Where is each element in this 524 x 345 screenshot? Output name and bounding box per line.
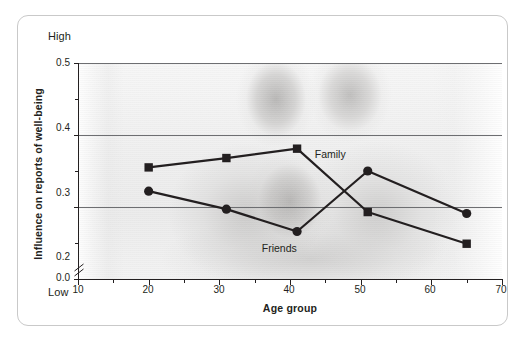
axis-high-label: High bbox=[48, 30, 71, 42]
data-point-family-1 bbox=[222, 154, 230, 162]
x-tick-label-4: 50 bbox=[340, 284, 380, 295]
chart-figure: High Low Influence on reports of well-be… bbox=[0, 0, 524, 345]
data-point-family-2 bbox=[293, 144, 301, 152]
x-axis-title: Age group bbox=[78, 302, 502, 314]
data-point-family-4 bbox=[462, 240, 470, 248]
y-tick-label-1: 0.4 bbox=[30, 122, 70, 133]
data-point-family-3 bbox=[364, 208, 372, 216]
y-tick-label-2: 0.3 bbox=[30, 187, 70, 198]
data-point-friends-0 bbox=[144, 187, 153, 196]
series-annotation-friends: Friends bbox=[262, 242, 297, 254]
y-axis-title: Influence on reports of well-being bbox=[32, 84, 44, 264]
data-point-friends-2 bbox=[292, 227, 301, 236]
x-tick-label-5: 60 bbox=[410, 284, 450, 295]
data-point-friends-3 bbox=[363, 166, 372, 175]
x-tick-label-2: 30 bbox=[199, 284, 239, 295]
series-annotation-family: Family bbox=[315, 148, 346, 160]
x-tick-label-1: 20 bbox=[128, 284, 168, 295]
y-tick-label-0: 0.5 bbox=[30, 57, 70, 68]
data-point-family-0 bbox=[144, 163, 152, 171]
x-tick-label-0: 10 bbox=[58, 284, 98, 295]
data-point-friends-1 bbox=[222, 205, 231, 214]
x-tick-label-3: 40 bbox=[269, 284, 309, 295]
x-tick-label-6: 70 bbox=[481, 284, 521, 295]
y-tick-label-3: 0.2 bbox=[30, 251, 70, 262]
series-line-family bbox=[149, 149, 467, 244]
data-point-friends-4 bbox=[462, 209, 471, 218]
series-line-friends bbox=[149, 171, 467, 231]
y-tick-label-zero: 0.0 bbox=[30, 272, 70, 283]
